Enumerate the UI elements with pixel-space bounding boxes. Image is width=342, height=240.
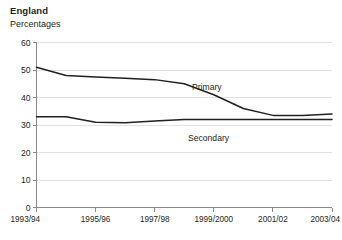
series-label-secondary: Secondary <box>188 133 230 143</box>
y-tick-label-10: 10 <box>21 175 31 185</box>
x-tick-label-0: 1993/94 <box>11 215 41 224</box>
series-inline-labels: PrimarySecondary <box>188 82 230 143</box>
y-tick-label-60: 60 <box>21 38 31 48</box>
x-tick-label-1: 1995/96 <box>81 215 111 224</box>
y-tick-label-0: 0 <box>26 203 31 213</box>
series-line-primary <box>37 67 333 115</box>
series-label-primary: Primary <box>192 82 222 92</box>
y-tick-label-40: 40 <box>21 93 31 103</box>
line-chart-plot: 0102030405060 1993/941995/961997/981999/… <box>0 0 342 240</box>
series-line-secondary <box>37 117 333 123</box>
y-axis-tick-labels: 0102030405060 <box>21 38 31 213</box>
y-tick-label-20: 20 <box>21 148 31 158</box>
x-axis-tick-marks <box>37 208 333 212</box>
chart-figure: England Percentages 0102030405060 1993/9… <box>0 0 342 240</box>
y-tick-label-30: 30 <box>21 120 31 130</box>
y-tick-label-50: 50 <box>21 65 31 75</box>
x-tick-label-4: 2001/02 <box>258 215 288 224</box>
x-tick-label-5: 2003/04 <box>310 215 340 224</box>
series-lines-group <box>37 67 333 123</box>
x-tick-label-3: 1999/2000 <box>194 215 233 224</box>
x-tick-label-2: 1997/98 <box>140 215 170 224</box>
x-axis-tick-labels: 1993/941995/961997/981999/20002001/02200… <box>11 215 341 224</box>
gridlines-group <box>37 43 333 181</box>
